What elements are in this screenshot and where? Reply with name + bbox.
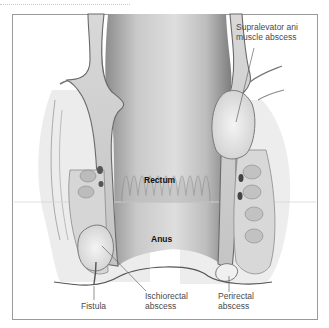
rectum-label: Rectum (144, 175, 175, 185)
perirectal-callout: Perirectal abscess (218, 291, 254, 311)
ischiorectal-callout-line2: abscess (145, 301, 188, 311)
right-sphincter-muscle (234, 150, 275, 274)
supralevator-callout-line1: Supralevator ani (236, 22, 298, 32)
perirectal-abscess (216, 264, 238, 282)
perirectal-callout-line1: Perirectal (218, 291, 254, 301)
supralevator-abscess (212, 91, 255, 159)
ischiorectal-callout-line1: Ischiorectal (145, 291, 188, 301)
supralevator-callout-line2: muscle abscess (236, 32, 298, 42)
perirectal-callout-line2: abscess (218, 301, 254, 311)
anorectal-illustration (0, 0, 329, 328)
fistula-callout-line1: Fistula (81, 301, 106, 311)
fistula-callout: Fistula (81, 301, 106, 311)
supralevator-callout: Supralevator ani muscle abscess (236, 22, 298, 42)
ischiorectal-callout: Ischiorectal abscess (145, 291, 188, 311)
anus-label: Anus (151, 234, 172, 244)
